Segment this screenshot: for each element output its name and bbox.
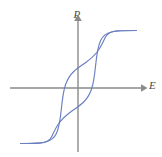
y-axis (74, 15, 82, 153)
x-axis (10, 84, 148, 92)
x-axis-arrowhead (141, 84, 148, 92)
hysteresis-figure: P E (0, 0, 162, 157)
x-axis-label: E (148, 79, 156, 91)
y-axis-label: P (73, 8, 81, 20)
hysteresis-plot: P E (0, 0, 162, 157)
